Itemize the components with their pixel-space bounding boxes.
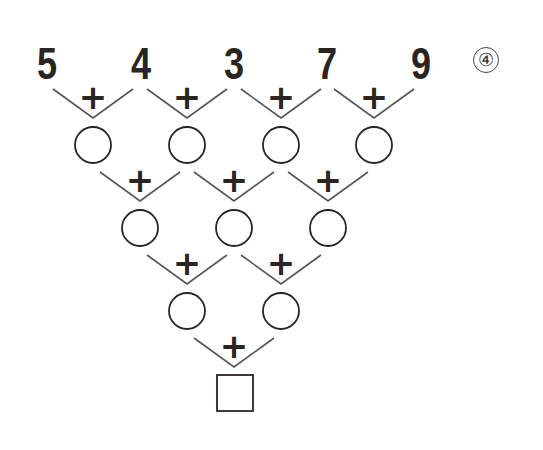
top-number: 3 [224,42,244,86]
plus-sign: + [126,163,155,197]
top-number: 7 [317,42,337,86]
plus-sign: + [267,80,296,114]
plus-sign: + [173,246,202,280]
plus-sign: + [79,80,108,114]
top-number: 9 [411,42,431,86]
top-number: 5 [37,42,57,86]
addition-pyramid: 5 4 3 7 9 + + + + + + + + + + ④ [0,0,543,450]
answer-box[interactable] [217,375,253,411]
plus-sign: + [173,80,202,114]
blank-circle[interactable] [122,210,158,246]
problem-number-label: ④ [473,47,499,73]
blank-circle[interactable] [310,210,346,246]
top-number: 4 [131,42,151,86]
blank-circle[interactable] [169,293,205,329]
plus-sign: + [220,163,249,197]
blank-circle[interactable] [263,127,299,163]
plus-sign: + [220,329,249,363]
problem-number: ④ [478,49,494,70]
plus-sign: + [360,80,389,114]
blank-circle[interactable] [169,127,205,163]
blank-circle[interactable] [356,127,392,163]
plus-sign: + [314,163,343,197]
blank-circle[interactable] [263,293,299,329]
plus-sign: + [267,246,296,280]
pyramid-lines [0,0,543,450]
blank-circle[interactable] [216,210,252,246]
blank-circle[interactable] [75,127,111,163]
